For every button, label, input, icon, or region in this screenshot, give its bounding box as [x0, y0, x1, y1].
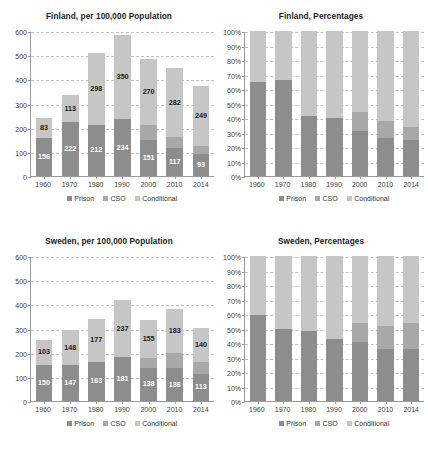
bar-segment-prison[interactable]: 93 [193, 154, 210, 176]
stacked-bar[interactable] [377, 31, 393, 176]
bar-segment-prison[interactable] [250, 82, 266, 176]
stacked-bar[interactable] [326, 31, 342, 176]
bar-segment-conditional[interactable] [250, 31, 266, 82]
bar-segment-conditional[interactable]: 282 [166, 68, 183, 136]
bar-segment-prison[interactable]: 212 [88, 125, 105, 176]
bar-segment-prison[interactable]: 150 [36, 365, 53, 401]
stacked-bar[interactable]: 83156 [36, 118, 53, 176]
bar-segment-prison[interactable]: 113 [193, 374, 210, 401]
stacked-bar[interactable]: 155138 [140, 320, 157, 401]
bar-segment-prison[interactable]: 222 [62, 122, 79, 176]
bar-segment-conditional[interactable]: 350 [114, 35, 131, 120]
bar-segment-conditional[interactable] [301, 256, 317, 331]
stacked-bar[interactable] [326, 256, 342, 401]
stacked-bar[interactable]: 148147 [62, 330, 79, 401]
bar-segment-conditional[interactable]: 177 [88, 319, 105, 362]
stacked-bar[interactable] [403, 256, 419, 401]
legend-item-prison[interactable]: Prison [279, 420, 306, 427]
bar-segment-conditional[interactable] [301, 31, 317, 116]
bar-segment-conditional[interactable] [377, 31, 393, 121]
legend-item-conditional[interactable]: Conditional [347, 420, 390, 427]
stacked-bar[interactable]: 350234 [114, 35, 131, 176]
bar-segment-conditional[interactable] [352, 256, 368, 323]
bar-segment-prison[interactable] [301, 331, 317, 401]
bar-segment-cso[interactable] [403, 127, 419, 140]
bar-segment-cso[interactable] [193, 362, 210, 374]
bar-segment-prison[interactable]: 136 [166, 368, 183, 401]
bar-segment-cso[interactable] [377, 326, 393, 349]
bar-segment-conditional[interactable]: 249 [193, 86, 210, 146]
bar-segment-conditional[interactable] [275, 256, 291, 329]
bar-segment-cso[interactable] [377, 121, 393, 138]
bar-segment-cso[interactable] [140, 358, 157, 368]
bar-segment-prison[interactable] [275, 80, 291, 176]
stacked-bar[interactable]: 237181 [114, 300, 131, 401]
bar-segment-prison[interactable] [403, 349, 419, 401]
legend-item-conditional[interactable]: Conditional [135, 420, 178, 427]
stacked-bar[interactable]: 270151 [140, 59, 157, 176]
bar-segment-conditional[interactable]: 237 [114, 300, 131, 357]
bar-segment-conditional[interactable]: 183 [166, 309, 183, 353]
bar-segment-conditional[interactable] [377, 256, 393, 326]
bar-segment-prison[interactable] [352, 342, 368, 401]
bar-segment-prison[interactable]: 117 [166, 148, 183, 176]
bar-segment-prison[interactable] [301, 116, 317, 176]
bar-segment-cso[interactable] [193, 146, 210, 153]
stacked-bar[interactable] [301, 31, 317, 176]
stacked-bar[interactable] [301, 256, 317, 401]
bar-segment-cso[interactable] [140, 125, 157, 140]
bar-segment-conditional[interactable]: 140 [193, 328, 210, 362]
bar-segment-conditional[interactable]: 103 [36, 340, 53, 365]
bar-segment-prison[interactable] [352, 131, 368, 176]
legend-item-cso[interactable]: CSO [103, 195, 126, 202]
bar-segment-prison[interactable]: 156 [36, 138, 53, 176]
bar-segment-prison[interactable]: 138 [140, 368, 157, 401]
stacked-bar[interactable]: 140113 [193, 328, 210, 401]
bar-segment-prison[interactable] [326, 339, 342, 401]
bar-segment-prison[interactable] [326, 118, 342, 176]
bar-segment-cso[interactable] [166, 353, 183, 368]
stacked-bar[interactable] [250, 256, 266, 401]
bar-segment-conditional[interactable] [403, 256, 419, 323]
legend-item-prison[interactable]: Prison [67, 420, 94, 427]
stacked-bar[interactable] [352, 31, 368, 176]
bar-segment-conditional[interactable] [326, 256, 342, 339]
bar-segment-conditional[interactable]: 270 [140, 59, 157, 124]
stacked-bar[interactable]: 103150 [36, 340, 53, 401]
bar-segment-conditional[interactable]: 155 [140, 320, 157, 357]
bar-segment-prison[interactable]: 151 [140, 140, 157, 176]
stacked-bar[interactable] [352, 256, 368, 401]
bar-segment-prison[interactable]: 147 [62, 365, 79, 401]
bar-segment-conditional[interactable]: 83 [36, 118, 53, 138]
bar-segment-conditional[interactable] [326, 31, 342, 118]
stacked-bar[interactable]: 298212 [88, 53, 105, 176]
bar-segment-prison[interactable] [250, 315, 266, 401]
stacked-bar[interactable] [275, 256, 291, 401]
stacked-bar[interactable] [403, 31, 419, 176]
bar-segment-prison[interactable]: 181 [114, 357, 131, 401]
bar-segment-cso[interactable] [352, 112, 368, 131]
legend-item-prison[interactable]: Prison [279, 195, 306, 202]
bar-segment-cso[interactable] [352, 323, 368, 342]
stacked-bar[interactable] [275, 31, 291, 176]
bar-segment-prison[interactable] [275, 329, 291, 402]
bar-segment-cso[interactable] [403, 323, 419, 349]
bar-segment-prison[interactable] [377, 138, 393, 176]
stacked-bar[interactable]: 113222 [62, 95, 79, 176]
legend-item-cso[interactable]: CSO [103, 420, 126, 427]
stacked-bar[interactable]: 183136 [166, 309, 183, 401]
bar-segment-prison[interactable]: 234 [114, 119, 131, 176]
bar-segment-conditional[interactable] [250, 256, 266, 315]
bar-segment-conditional[interactable]: 113 [62, 95, 79, 122]
stacked-bar[interactable]: 24993 [193, 86, 210, 176]
legend-item-cso[interactable]: CSO [315, 420, 338, 427]
legend-item-prison[interactable]: Prison [67, 195, 94, 202]
bar-segment-conditional[interactable] [403, 31, 419, 127]
bar-segment-prison[interactable]: 163 [88, 362, 105, 401]
stacked-bar[interactable]: 177163 [88, 319, 105, 401]
bar-segment-prison[interactable] [403, 140, 419, 176]
bar-segment-conditional[interactable] [352, 31, 368, 112]
legend-item-conditional[interactable]: Conditional [135, 195, 178, 202]
stacked-bar[interactable] [377, 256, 393, 401]
bar-segment-cso[interactable] [166, 137, 183, 148]
